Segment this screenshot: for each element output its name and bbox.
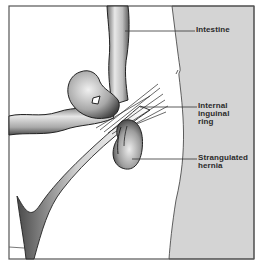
- wall-tick: [176, 70, 178, 74]
- intestine-upper: [107, 6, 129, 105]
- label-strangulated-hernia: Strangulated hernia: [198, 154, 248, 170]
- frame-tick: [9, 247, 24, 248]
- label-intestine: Intestine: [196, 26, 230, 34]
- label-internal-inguinal-ring: Internal inguinal ring: [198, 102, 229, 126]
- hernia-diagram: [0, 0, 261, 272]
- abdominal-wall: [169, 6, 254, 259]
